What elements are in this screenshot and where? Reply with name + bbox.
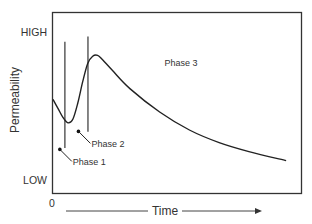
y-axis-label: Permeability [8,67,22,133]
annotation-phase-2: Phase 2 [91,139,124,149]
arrow-right-icon [255,208,262,214]
x-axis-label: Time [152,204,179,218]
x-origin-label: 0 [49,197,55,209]
y-tick-low: LOW [23,174,47,186]
y-tick-high: HIGH [21,26,47,38]
annotation-leader-1 [60,149,72,161]
annotation-phase-1: Phase 1 [73,157,106,167]
chart-svg: Phase 1Phase 2Phase 3 HIGH LOW 0 Permeab… [0,0,312,224]
annotation-phase-3: Phase 3 [165,58,198,68]
annotation-leader-2 [78,131,90,143]
